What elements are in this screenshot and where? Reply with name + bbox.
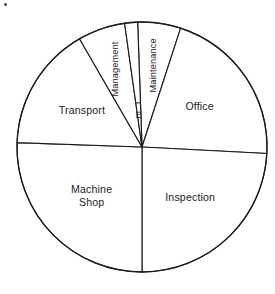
pie-slice-label-maintenance: Maintenance — [148, 38, 158, 92]
pie-slice-label-inspection: Inspection — [165, 191, 215, 203]
pie-slice-label-m: m — [133, 111, 143, 118]
corner-dot-mark — [4, 3, 7, 6]
pie-slice-label-management: Management — [110, 41, 120, 96]
pie-chart-figure: MaintenanceOfficeInspectionMachineShopTr… — [0, 0, 275, 294]
pie-slice-label-office: Office — [185, 100, 213, 112]
pie-slice-inspection[interactable] — [142, 147, 267, 272]
pie-wedge-group — [17, 22, 267, 272]
pie-slice-label-transport: Transport — [59, 104, 105, 116]
pie-chart-canvas: MaintenanceOfficeInspectionMachineShopTr… — [0, 0, 275, 294]
